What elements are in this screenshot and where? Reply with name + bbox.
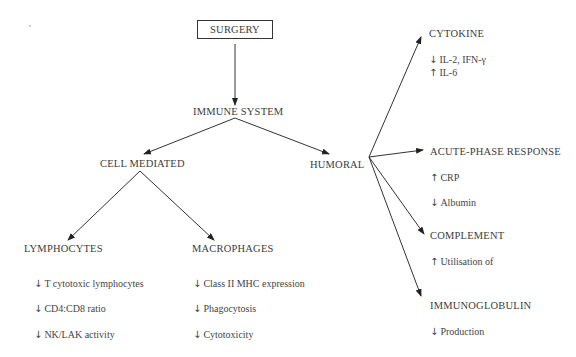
arrow-down-icon: ↓ bbox=[429, 54, 437, 65]
node-acute-phase-response: ACUTE-PHASE RESPONSE bbox=[430, 146, 561, 157]
cytokine-effect: ↑IL-6 bbox=[429, 67, 457, 78]
arrow-down-icon: ↓ bbox=[34, 278, 42, 289]
node-lymphocytes: LYMPHOCYTES bbox=[24, 243, 103, 254]
node-immunoglobulin: IMMUNOGLOBULIN bbox=[430, 300, 531, 311]
macrophage-effect: ↓Class II MHC expression bbox=[193, 278, 305, 289]
acute-phase-effect: ↓Albumin bbox=[430, 197, 476, 208]
macrophage-effect: ↓Cytotoxicity bbox=[193, 329, 253, 340]
node-cell-mediated: CELL MEDIATED bbox=[100, 158, 185, 169]
node-macrophages: MACROPHAGES bbox=[192, 243, 274, 254]
macrophage-effect: ↓Phagocytosis bbox=[193, 303, 256, 314]
lymphocyte-effect: ↓T cytotoxic lymphocytes bbox=[34, 278, 144, 289]
immunoglobulin-effect: ↓Production bbox=[430, 326, 484, 337]
acute-phase-effect: ↑CRP bbox=[430, 172, 459, 183]
lymphocyte-effect: ↓CD4:CD8 ratio bbox=[34, 303, 106, 314]
edge-humoral-complement bbox=[369, 157, 424, 234]
arrow-down-icon: ↓ bbox=[193, 278, 201, 289]
arrow-up-icon: ↑ bbox=[430, 172, 438, 183]
complement-effect: ↑Utilisation of bbox=[430, 256, 493, 267]
arrow-up-icon: ↑ bbox=[429, 67, 437, 78]
node-immune-system: IMMUNE SYSTEM bbox=[193, 106, 283, 117]
arrow-down-icon: ↓ bbox=[34, 329, 42, 340]
node-cytokine: CYTOKINE bbox=[429, 28, 484, 39]
arrow-up-icon: ↑ bbox=[430, 256, 438, 267]
arrow-down-icon: ↓ bbox=[193, 303, 201, 314]
arrow-down-icon: ↓ bbox=[430, 326, 438, 337]
lymphocyte-effect: ↓NK/LAK activity bbox=[34, 329, 115, 340]
edge-cell-lymphocytes bbox=[68, 171, 140, 240]
edge-humoral-cytokine bbox=[369, 37, 421, 157]
edge-humoral-acute-phase bbox=[369, 150, 423, 157]
arrow-down-icon: ↓ bbox=[430, 197, 438, 208]
edge-immune-cell-mediated bbox=[144, 118, 235, 154]
node-humoral: HUMORAL bbox=[310, 159, 365, 170]
edge-immune-humoral bbox=[235, 118, 329, 154]
arrow-down-icon: ↓ bbox=[193, 329, 201, 340]
edge-cell-macrophages bbox=[140, 171, 214, 240]
stray-dot bbox=[29, 25, 31, 27]
arrow-down-icon: ↓ bbox=[34, 303, 42, 314]
node-complement: COMPLEMENT bbox=[430, 230, 504, 241]
node-surgery: SURGERY bbox=[197, 20, 273, 39]
edge-humoral-immunoglobulin bbox=[369, 157, 421, 296]
surgery-immune-diagram: SURGERY IMMUNE SYSTEM CELL MEDIATED LYMP… bbox=[0, 0, 576, 357]
cytokine-effect: ↓IL-2, IFN-γ bbox=[429, 54, 486, 65]
